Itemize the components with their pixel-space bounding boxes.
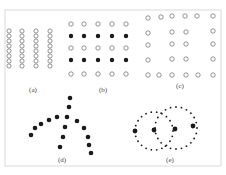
ring-point [141,116,143,118]
filled-point [58,145,63,150]
hollow-point [7,59,11,63]
key-point [191,124,196,129]
hollow-point [159,15,163,19]
ring-point [137,120,139,122]
ring-point [175,106,177,108]
hollow-point [196,73,200,77]
ring-point [196,127,198,129]
hollow-point [48,39,52,43]
ring-point [157,117,159,119]
ring-point [165,145,167,147]
filled-point [75,119,80,124]
ring-point [186,145,188,147]
ring-point [145,113,147,115]
hollow-point [146,43,150,47]
ring-point [169,120,171,122]
panel-c-hollow-frame-grid [146,14,215,77]
hollow-point [69,46,73,50]
hollow-point [183,14,187,18]
filled-point [61,135,66,140]
hollow-point [20,34,24,38]
ring-point [181,147,183,149]
ring-point [156,111,158,113]
ring-point [169,140,171,142]
ring-point [190,112,192,114]
hollow-point [34,64,38,68]
hollow-point [146,73,150,77]
hollow-point [48,34,52,38]
hollow-point [48,44,52,48]
filled-point [29,133,34,138]
key-point [133,129,138,134]
ring-point [171,135,173,137]
ring-point [170,147,172,149]
hollow-point [20,59,24,63]
hollow-point [170,73,174,77]
ring-point [155,122,157,124]
hollow-point [7,64,11,68]
hollow-point [34,39,38,43]
hollow-point [96,72,100,76]
hollow-point [48,64,52,68]
hollow-point [211,29,215,33]
hollow-point [20,44,24,48]
ring-point [160,112,162,114]
filled-point [96,34,100,38]
hollow-point [20,49,24,53]
filled-point [69,34,73,38]
filled-point [87,143,92,148]
filled-point [67,105,72,110]
hollow-point [82,72,86,76]
hollow-point [48,59,52,63]
panel-e-label: (e) [166,156,174,164]
ring-point [137,140,139,142]
hollow-point [170,57,174,61]
ring-point [190,142,192,144]
filled-point [82,34,86,38]
hollow-point [34,44,38,48]
hollow-point [34,54,38,58]
hollow-point [110,22,114,26]
hollow-point [146,58,150,62]
hollow-point [48,54,52,58]
filled-point [33,126,38,131]
filled-point [89,151,94,156]
hollow-point [7,49,11,53]
panel-d-label: (d) [58,156,67,164]
panel-b-label: (b) [99,86,108,94]
filled-point [124,58,128,62]
filled-point [86,135,91,140]
hollow-point [146,31,150,35]
figure-frame [5,10,221,166]
panel-b-alternating-rows [69,22,128,76]
hollow-point [34,29,38,33]
panel-d-branching-tree [29,96,94,156]
filled-point [82,126,87,131]
hollow-point [69,72,73,76]
filled-point [55,115,60,120]
hollow-point [20,64,24,68]
ring-point [170,107,172,109]
panel-a-dense-columns [7,29,52,68]
hollow-point [7,54,11,58]
hollow-point [110,72,114,76]
key-point [152,128,157,133]
ring-point [193,138,195,140]
ring-point [155,133,157,135]
ring-point [135,135,137,137]
hollow-point [124,72,128,76]
ring-point [141,144,143,146]
ring-point [135,125,137,127]
ring-point [195,133,197,135]
hollow-point [211,57,215,61]
ring-point [145,147,147,149]
hollow-point [110,46,114,50]
key-point [173,127,178,132]
hollow-point [34,49,38,53]
panel-a-label: (a) [29,86,37,94]
filled-point [68,96,73,101]
hollow-point [7,39,11,43]
ring-point [195,122,197,124]
hollow-point [184,42,188,46]
ring-point [175,148,177,150]
